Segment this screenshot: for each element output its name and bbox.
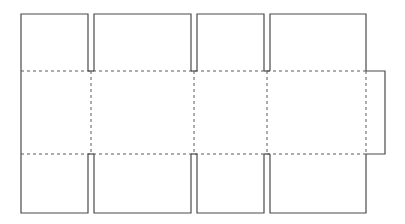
box-net-diagram: Box net (die-cut template) solid line = … [0, 0, 405, 224]
fold-lines [21, 71, 366, 154]
net-canvas [0, 0, 405, 224]
cut-lines [21, 14, 385, 213]
top-flap-3 [197, 14, 264, 71]
glue-tab [366, 71, 385, 154]
top-flap-2 [94, 14, 191, 71]
bottom-flap-4 [270, 154, 366, 213]
bottom-flap-1 [21, 154, 88, 213]
bottom-flap-2 [94, 154, 191, 213]
bottom-flap-3 [197, 154, 264, 213]
top-flap-1 [21, 14, 88, 71]
top-flap-4 [270, 14, 366, 71]
